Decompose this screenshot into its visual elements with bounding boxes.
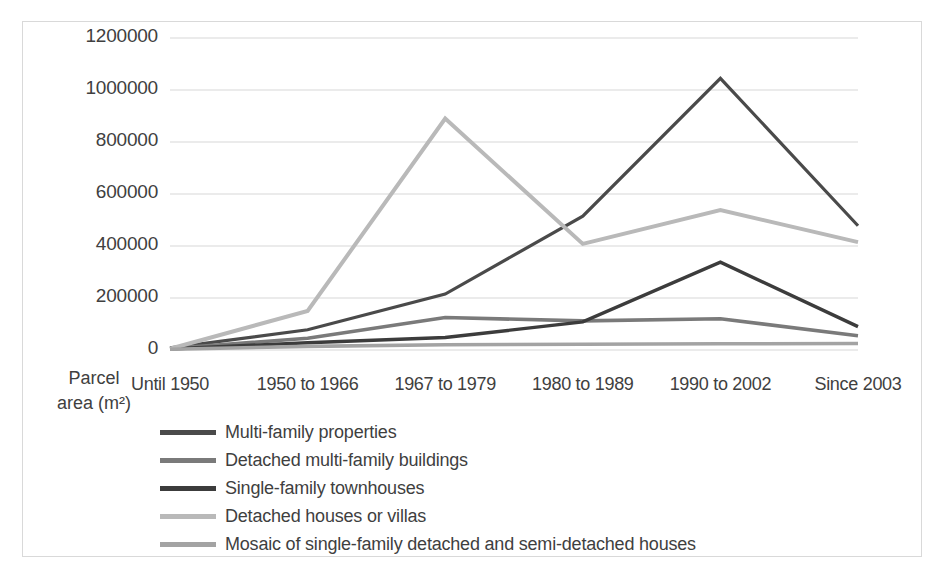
y-axis-tick-label: 0 (20, 337, 158, 359)
legend-color-swatch (160, 458, 216, 463)
legend-item[interactable]: Detached multi-family buildings (160, 446, 696, 474)
x-axis-tick-label: 1967 to 1979 (375, 374, 515, 395)
legend-item-label: Detached multi-family buildings (225, 450, 468, 471)
x-axis-tick-label: 1980 to 1989 (513, 374, 653, 395)
legend-item-label: Single-family townhouses (225, 478, 424, 499)
y-axis-tick-label: 400000 (20, 233, 158, 255)
y-axis-tick-label: 200000 (20, 285, 158, 307)
legend-item[interactable]: Detached houses or villas (160, 502, 696, 530)
series-line (170, 119, 858, 349)
series-line (170, 262, 858, 349)
series-line (170, 78, 858, 348)
legend-color-swatch (160, 486, 216, 491)
y-axis-title-line-1: Parcel (34, 366, 154, 391)
legend-item-label: Detached houses or villas (225, 506, 426, 527)
chart-legend: Multi-family propertiesDetached multi-fa… (160, 418, 696, 558)
chart-figure: 020000040000060000080000010000001200000 … (0, 0, 945, 584)
gridlines (170, 38, 858, 350)
legend-item-label: Multi-family properties (225, 422, 396, 443)
y-axis-tick-label: 800000 (20, 129, 158, 151)
legend-item[interactable]: Mosaic of single-family detached and sem… (160, 530, 696, 558)
y-axis-title: Parcel area (m²) (34, 366, 154, 416)
legend-color-swatch (160, 514, 216, 519)
series-lines (170, 78, 858, 349)
y-axis-title-line-2: area (m²) (34, 391, 154, 416)
legend-color-swatch (160, 542, 216, 547)
y-axis-tick-label: 1200000 (20, 25, 158, 47)
x-axis-tick-label: 1950 to 1966 (238, 374, 378, 395)
x-axis-tick-label: 1990 to 2002 (650, 374, 790, 395)
legend-item[interactable]: Multi-family properties (160, 418, 696, 446)
x-axis-tick-label: Since 2003 (788, 374, 928, 395)
legend-color-swatch (160, 430, 216, 435)
legend-item-label: Mosaic of single-family detached and sem… (225, 534, 696, 555)
y-axis-tick-label: 1000000 (20, 77, 158, 99)
y-axis-tick-label: 600000 (20, 181, 158, 203)
legend-item[interactable]: Single-family townhouses (160, 474, 696, 502)
